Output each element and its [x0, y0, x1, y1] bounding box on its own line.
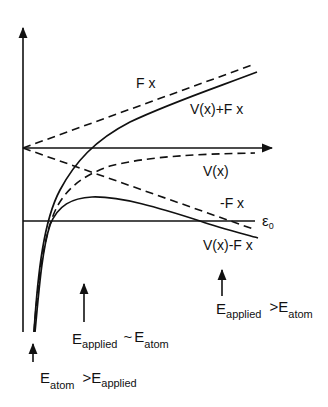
potential-diagram: F x V(x)+F x V(x) -F x V(x)-F x ε0 Eatom…	[0, 0, 328, 407]
fx-label: F x	[136, 75, 155, 91]
comparable-field-label: Eapplied~Eatom	[72, 328, 169, 350]
strong-field-label: Eapplied>Eatom	[216, 298, 313, 320]
epsilon0-label: ε0	[262, 212, 274, 231]
vx-label: V(x)	[203, 163, 229, 179]
v-minus-fx-label: V(x)-F x	[203, 237, 253, 253]
weak-field-label: Eatom>Eapplied	[40, 369, 137, 391]
minus-fx-label: -F x	[220, 195, 244, 211]
v-plus-fx-label: V(x)+F x	[190, 101, 243, 117]
